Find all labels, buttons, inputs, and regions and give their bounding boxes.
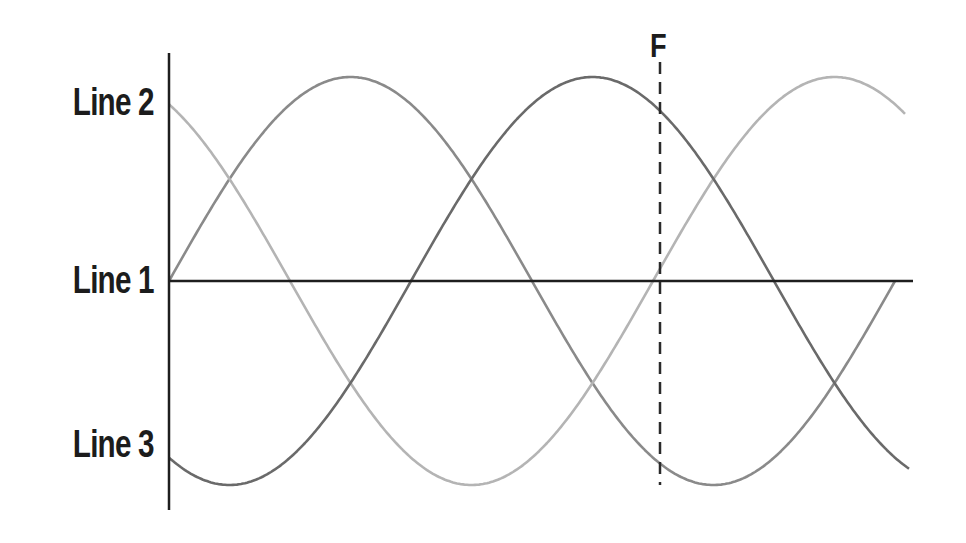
- three-phase-diagram: Line 2 Line 1 Line 3 F: [0, 0, 966, 543]
- waveform-plot: [0, 0, 966, 543]
